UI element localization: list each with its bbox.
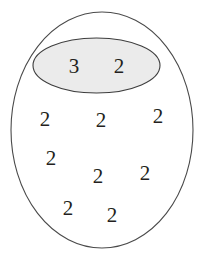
node-label-2-9: 2 — [59, 198, 77, 219]
node-label-2-10: 2 — [103, 205, 121, 226]
node-label-2-5: 2 — [149, 106, 167, 127]
diagram-canvas: 3222222222 — [0, 0, 204, 264]
node-label-2-6: 2 — [42, 148, 60, 169]
node-label-3-1: 3 — [65, 56, 83, 77]
node-label-2-2: 2 — [110, 56, 128, 77]
node-label-2-3: 2 — [36, 109, 54, 130]
inner-shaded-subset — [33, 38, 160, 93]
diagram-svg — [0, 0, 204, 264]
node-label-2-7: 2 — [89, 166, 107, 187]
node-label-2-4: 2 — [92, 110, 110, 131]
node-label-2-8: 2 — [136, 163, 154, 184]
